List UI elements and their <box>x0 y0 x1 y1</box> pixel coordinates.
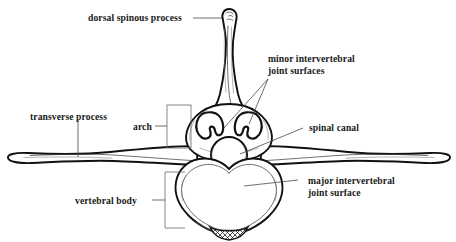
label-transverse-process: transverse process <box>30 111 107 122</box>
label-arch: arch <box>133 121 152 132</box>
label-major-joint-line2: joint surface <box>307 187 361 198</box>
minor-joint-surface-left <box>196 112 223 138</box>
label-dorsal-spinous-process: dorsal spinous process <box>88 12 182 23</box>
label-vertebral-body: vertebral body <box>75 195 137 206</box>
minor-joint-surface-right <box>235 112 262 138</box>
dorsal-spinous-process <box>208 9 250 116</box>
label-spinal-canal: spinal canal <box>309 122 359 133</box>
label-major-joint-line1: major intervertebral <box>308 175 395 186</box>
vertebra-diagram: dorsal spinous process minor interverteb… <box>0 0 456 242</box>
diagram-canvas: dorsal spinous process minor interverteb… <box>0 0 456 242</box>
label-minor-joint-line2: joint surfaces <box>267 65 325 76</box>
transverse-process-right <box>260 146 450 165</box>
transverse-process-left <box>8 146 198 165</box>
vertebral-body <box>176 158 283 236</box>
label-minor-joint-line1: minor intervertebral <box>268 53 355 64</box>
